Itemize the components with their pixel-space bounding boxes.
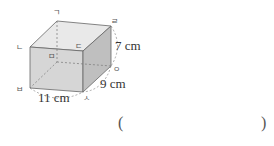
vertex-label-top-front-left: ㄴ [16,43,23,52]
height-dimension-label: 7 cm [115,38,141,53]
vertex-label-top-back-right: ㄹ [111,17,118,26]
answer-open-paren: ( [118,114,123,132]
front-face [30,47,83,92]
answer-close-paren: ) [261,114,266,132]
answer-blank[interactable] [128,116,256,134]
vertex-label-bottom-back-right: ㅇ [113,65,120,74]
width-dimension-label: 11 cm [38,90,70,105]
vertex-label-bottom-front-right: ㅅ [83,94,90,103]
vertex-label-bottom-front-left: ㅂ [16,85,23,94]
vertex-label-top-back-left: ㄱ [53,8,60,17]
vertex-label-top-front-right: ㄷ [75,42,82,51]
depth-dimension-label: 9 cm [100,76,126,91]
vertex-label-bottom-back-left: ㅁ [48,52,55,61]
